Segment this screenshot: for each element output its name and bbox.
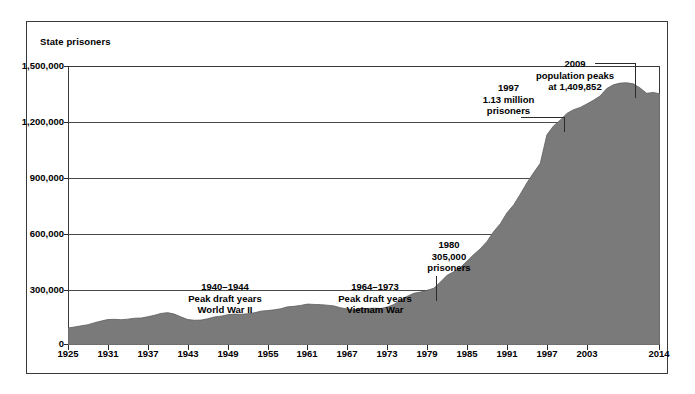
annotation-1980: 1980 305,000 prisoners: [410, 239, 488, 274]
annotation-vietnam-line3: Vietnam War: [320, 304, 430, 316]
x-tick-label-1979: 1979: [416, 348, 437, 359]
y-tick-label-1500000: 1,500,000: [22, 61, 64, 71]
leader-line-1980: [436, 276, 437, 301]
annotation-1980-line1: 1980: [410, 239, 488, 251]
x-tick-label-1949: 1949: [217, 348, 238, 359]
x-tick-label-2003: 2003: [576, 348, 597, 359]
annotation-vietnam-war: 1964–1973 Peak draft years Vietnam War: [320, 281, 430, 316]
annotation-1980-line2: 305,000: [410, 251, 488, 263]
annotation-wwii-line3: World War II: [170, 304, 280, 316]
annotation-vietnam-line1: 1964–1973: [320, 281, 430, 293]
y-tick-label-300000: 300,000: [30, 285, 64, 295]
x-tick-label-1973: 1973: [376, 348, 397, 359]
x-tick-label-1997: 1997: [536, 348, 557, 359]
leader-line-1997-horizontal: [521, 117, 565, 118]
leader-line-2009-vertical: [635, 63, 636, 98]
x-tick-label-1937: 1937: [137, 348, 158, 359]
y-tick-label-900000: 900,000: [30, 173, 64, 183]
y-tick-label-1200000: 1,200,000: [22, 117, 64, 127]
x-tick-label-1955: 1955: [257, 348, 278, 359]
x-tick-label-1931: 1931: [97, 348, 118, 359]
annotation-2009-line3: at 1,409,852: [520, 81, 630, 93]
leader-line-2009-horizontal: [595, 63, 636, 64]
annotation-2009-line2: population peaks: [520, 70, 630, 82]
annotation-1997-line3: prisoners: [466, 105, 551, 117]
x-tick-label-1943: 1943: [177, 348, 198, 359]
x-tick-label-2014: 2014: [648, 348, 669, 359]
annotation-1997-line2: 1.13 million: [466, 94, 551, 106]
annotation-wwii-line1: 1940–1944: [170, 281, 280, 293]
figure-container: State prisoners 1,500,000 1,200,000 900,…: [0, 0, 695, 394]
annotation-wwii-line2: Peak draft years: [170, 293, 280, 305]
x-tick-label-1925: 1925: [57, 348, 78, 359]
annotation-vietnam-line2: Peak draft years: [320, 293, 430, 305]
x-tick-label-1985: 1985: [456, 348, 477, 359]
x-tick-label-1967: 1967: [336, 348, 357, 359]
y-tick-label-600000: 600,000: [30, 229, 64, 239]
x-tick-label-1961: 1961: [296, 348, 317, 359]
y-axis-tick-labels: 1,500,000 1,200,000 900,000 600,000 300,…: [0, 0, 64, 394]
leader-line-1997-vertical: [564, 117, 565, 132]
annotation-1980-line3: prisoners: [410, 262, 488, 274]
x-tick-label-1991: 1991: [496, 348, 517, 359]
annotation-world-war-ii: 1940–1944 Peak draft years World War II: [170, 281, 280, 316]
